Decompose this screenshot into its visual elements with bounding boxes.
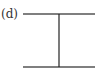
diagram-canvas <box>0 0 103 74</box>
